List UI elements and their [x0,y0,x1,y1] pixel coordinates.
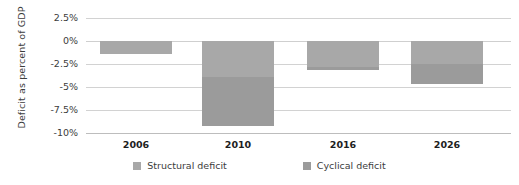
deficit-stacked-bar-chart: Deficit as percent of GDP 2.5% 0% -2.5% … [0,0,519,185]
legend-item-structural-deficit[interactable]: Structural deficit [133,160,226,171]
bar-segment-cyclical-deficit-2016[interactable] [307,67,379,70]
y-tick-label: -7.5% [0,104,78,115]
y-tick-label: 2.5% [0,12,78,23]
y-tick-label: -5% [0,81,78,92]
y-tick-label: -10% [0,127,78,138]
legend-label: Structural deficit [147,160,226,171]
legend-swatch-icon [133,162,141,170]
bar-segment-cyclical-deficit-2010[interactable] [202,77,274,126]
bar-segment-structural-deficit-2006[interactable] [100,41,172,54]
bar-group-2016[interactable] [307,0,379,140]
y-tick-label: -2.5% [0,58,78,69]
bar-segment-structural-deficit-2026[interactable] [411,41,483,64]
bar-group-2006[interactable] [100,0,172,140]
bar-group-2026[interactable] [411,0,483,140]
bar-segment-structural-deficit-2010[interactable] [202,41,274,77]
x-tick-label-2016: 2016 [307,139,379,150]
bar-segment-cyclical-deficit-2026[interactable] [411,64,483,84]
y-axis-tick-labels: 2.5% 0% -2.5% -5% -7.5% -10% [0,0,84,185]
y-tick-label: 0% [0,35,78,46]
legend-item-cyclical-deficit[interactable]: Cyclical deficit [303,160,386,171]
x-tick-label-2026: 2026 [411,139,483,150]
plot-area: 2006 2010 2016 2026 [86,0,511,185]
bar-segment-structural-deficit-2016[interactable] [307,41,379,67]
x-tick-label-2006: 2006 [100,139,172,150]
legend-label: Cyclical deficit [317,160,386,171]
x-tick-label-2010: 2010 [202,139,274,150]
legend-swatch-icon [303,162,311,170]
bar-group-2010[interactable] [202,0,274,140]
chart-legend: Structural deficit Cyclical deficit [0,160,519,171]
